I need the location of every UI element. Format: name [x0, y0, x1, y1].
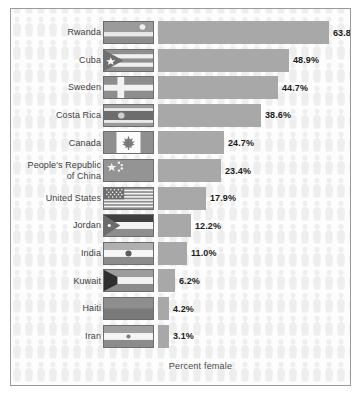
country-label: Haiti	[15, 303, 101, 314]
bar-value-label: 23.4%	[225, 166, 251, 176]
iran-flag	[103, 325, 154, 348]
country-label-line-1: Sweden	[15, 82, 101, 93]
bar	[158, 131, 224, 154]
bar-value-label: 44.7%	[282, 83, 308, 93]
chart-row: Haiti4.2%	[11, 297, 350, 320]
chart-row: Cuba48.9%	[11, 49, 350, 72]
chart-row: Iran3.1%	[11, 325, 350, 348]
sweden-flag	[103, 76, 154, 99]
country-label: India	[15, 248, 101, 259]
country-label-line-1: Iran	[15, 331, 101, 342]
bar	[158, 104, 261, 127]
country-label-line-1: Canada	[15, 138, 101, 149]
country-label-line-2: of China	[15, 171, 101, 182]
country-label: Rwanda	[15, 27, 101, 38]
bar-rows: Rwanda63.8%Cuba48.9%Sweden44.7%Costa Ric…	[11, 9, 350, 385]
country-label: Kuwait	[15, 276, 101, 287]
bar-value-label: 38.6%	[265, 110, 291, 120]
bar	[158, 325, 169, 348]
chart-row: People's Republicof China23.4%	[11, 159, 350, 182]
country-label: Sweden	[15, 82, 101, 93]
bar-value-label: 6.2%	[179, 276, 200, 286]
costa-rica-flag	[103, 104, 154, 127]
bar	[158, 187, 206, 210]
bar	[158, 269, 175, 292]
country-label: Canada	[15, 138, 101, 149]
country-label-line-1: Kuwait	[15, 276, 101, 287]
chart-row: India11.0%	[11, 242, 350, 265]
country-label-line-1: India	[15, 248, 101, 259]
chart-row: Costa Rica38.6%	[11, 104, 350, 127]
canada-flag	[103, 131, 154, 154]
bar-value-label: 12.2%	[195, 221, 221, 231]
kuwait-flag	[103, 269, 154, 292]
country-label-line-1: Rwanda	[15, 27, 101, 38]
bar	[158, 242, 187, 265]
x-axis-label: Percent female	[11, 361, 350, 371]
bar-value-label: 48.9%	[293, 55, 319, 65]
bar-value-label: 3.1%	[173, 331, 194, 341]
country-label-line-1: Costa Rica	[15, 110, 101, 121]
china-flag	[103, 159, 154, 182]
country-label: United States	[15, 193, 101, 204]
country-label-line-1: United States	[15, 193, 101, 204]
country-label: Cuba	[15, 55, 101, 66]
chart-row: Rwanda63.8%	[11, 21, 350, 44]
rwanda-flag	[103, 21, 154, 44]
chart-row: Sweden44.7%	[11, 76, 350, 99]
bar	[158, 21, 329, 44]
jordan-flag	[103, 214, 154, 237]
bar-value-label: 24.7%	[228, 138, 254, 148]
cuba-flag	[103, 49, 154, 72]
bar-value-label: 4.2%	[173, 304, 194, 314]
bar-value-label: 17.9%	[210, 193, 236, 203]
country-label-line-1: Jordan	[15, 220, 101, 231]
bar	[158, 76, 278, 99]
country-label-line-1: People's Republic	[15, 160, 101, 171]
x-axis-label-text: Percent female	[129, 361, 232, 371]
country-label: Jordan	[15, 220, 101, 231]
bar	[158, 214, 191, 237]
country-label: People's Republicof China	[15, 160, 101, 181]
chart-row: United States17.9%	[11, 187, 350, 210]
chart-row: Jordan12.2%	[11, 214, 350, 237]
country-label-line-1: Cuba	[15, 55, 101, 66]
bar-value-label: 63.8%	[333, 28, 351, 38]
haiti-flag	[103, 297, 154, 320]
chart-row: Kuwait6.2%	[11, 269, 350, 292]
country-label: Costa Rica	[15, 110, 101, 121]
country-label-line-1: Haiti	[15, 303, 101, 314]
usa-flag	[103, 187, 154, 210]
chart-row: Canada24.7%	[11, 131, 350, 154]
bar	[158, 297, 169, 320]
country-label: Iran	[15, 331, 101, 342]
bar	[158, 159, 221, 182]
india-flag	[103, 242, 154, 265]
chart-frame: Rwanda63.8%Cuba48.9%Sweden44.7%Costa Ric…	[10, 8, 351, 386]
bar	[158, 49, 289, 72]
bar-value-label: 11.0%	[191, 248, 217, 258]
